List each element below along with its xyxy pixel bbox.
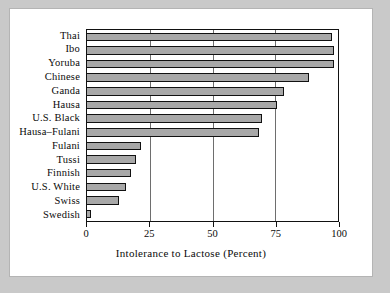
bar-row (87, 98, 338, 112)
y-axis-label: Chinese (10, 70, 84, 84)
bar (86, 155, 136, 164)
bar (86, 46, 334, 55)
bar (86, 114, 262, 123)
plot-area (86, 29, 339, 222)
plot-wrapper: ThaiIboYorubaChineseGandaHausaU.S. Black… (10, 9, 372, 276)
x-tick-mark (149, 222, 150, 227)
y-axis-label: Yoruba (10, 57, 84, 71)
bar-row (87, 180, 338, 194)
y-axis-label: Hausa (10, 98, 84, 112)
bar-series (87, 30, 338, 221)
y-axis-label: Swiss (10, 194, 84, 208)
bar (86, 142, 141, 151)
bar (86, 183, 126, 192)
x-tick-mark (86, 222, 87, 227)
x-tick-mark (339, 222, 340, 227)
bar-row (87, 85, 338, 99)
x-tick-label: 75 (271, 228, 282, 239)
bar (86, 210, 91, 219)
bar-row (87, 30, 338, 44)
bar-row (87, 207, 338, 221)
bar-row (87, 139, 338, 153)
bar (86, 169, 131, 178)
bar-row (87, 112, 338, 126)
y-axis-label: Tussi (10, 153, 84, 167)
x-tick-label: 0 (83, 228, 88, 239)
y-axis-label: Thai (10, 29, 84, 43)
bar-row (87, 166, 338, 180)
bar (86, 128, 259, 137)
x-tick-label: 25 (144, 228, 155, 239)
y-axis-label: Fulani (10, 139, 84, 153)
y-axis-label: Ganda (10, 84, 84, 98)
bar (86, 87, 284, 96)
y-axis-label: U.S. White (10, 181, 84, 195)
x-axis-ticks: 0255075100 (86, 222, 339, 244)
x-tick-mark (213, 222, 214, 227)
y-axis-label: Hausa–Fulani (10, 125, 84, 139)
y-axis-label: Swedish (10, 208, 84, 222)
bar-row (87, 57, 338, 71)
x-tick-mark (276, 222, 277, 227)
y-axis-label: U.S. Black (10, 112, 84, 126)
x-tick-label: 50 (207, 228, 218, 239)
chart-figure-card: ThaiIboYorubaChineseGandaHausaU.S. Black… (9, 8, 373, 277)
x-axis-title: Intolerance to Lactose (Percent) (10, 247, 372, 259)
bar-row (87, 194, 338, 208)
y-axis-category-labels: ThaiIboYorubaChineseGandaHausaU.S. Black… (10, 29, 84, 222)
bar (86, 33, 332, 42)
bar-row (87, 125, 338, 139)
bar (86, 101, 277, 110)
x-tick-label: 100 (331, 228, 347, 239)
bar-row (87, 44, 338, 58)
bar (86, 73, 309, 82)
bar-row (87, 71, 338, 85)
y-axis-label: Ibo (10, 43, 84, 57)
bar-row (87, 153, 338, 167)
y-axis-label: Finnish (10, 167, 84, 181)
bar (86, 196, 119, 205)
bar (86, 60, 334, 69)
